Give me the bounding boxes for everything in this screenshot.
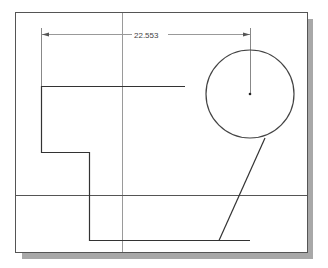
drawing-frame [16, 13, 308, 253]
circle-center-point[interactable] [249, 93, 252, 96]
dimension-value[interactable]: 22.553 [134, 31, 159, 40]
sketch-canvas[interactable]: 22.553 [0, 0, 328, 268]
frame-shadow [22, 252, 312, 259]
